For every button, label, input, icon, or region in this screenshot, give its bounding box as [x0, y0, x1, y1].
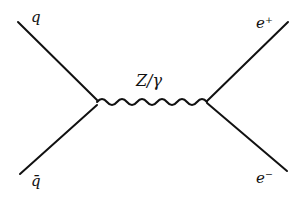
label-positron: e⁺ [256, 14, 273, 32]
label-quark: q [31, 8, 41, 26]
label-electron: e⁻ [256, 169, 273, 187]
label-propagator: Z/γ [135, 71, 163, 90]
electron-line [207, 103, 287, 171]
antiquark-line [20, 105, 97, 174]
label-antiquark: q̄ [31, 172, 41, 190]
feynman-diagram: q q̄ Z/γ e⁺ e⁻ [0, 0, 306, 197]
propagator-wavy-line [97, 99, 207, 105]
positron-line [207, 22, 288, 101]
quark-line [18, 22, 97, 100]
